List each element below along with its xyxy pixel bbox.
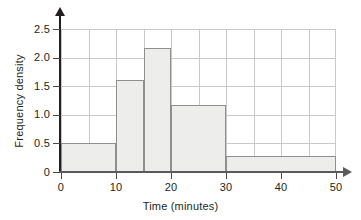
y-axis-title: Frequency density xyxy=(13,36,25,166)
gridline-x-30 xyxy=(226,29,227,172)
x-axis-title: Time (minutes) xyxy=(0,200,361,212)
gridline-x-35 xyxy=(254,29,255,172)
x-tick-50 xyxy=(336,173,337,179)
x-tick-label: 0 xyxy=(41,182,81,193)
x-axis-line xyxy=(59,171,344,173)
y-tick-label: 0 xyxy=(10,167,50,178)
gridline-x-40 xyxy=(281,29,282,172)
histogram-bar xyxy=(144,48,172,172)
y-axis-arrow-icon xyxy=(55,7,65,16)
histogram-bar xyxy=(171,105,226,172)
y-tick-label: 2.5 xyxy=(10,24,50,35)
y-axis-line xyxy=(59,14,61,173)
y-tick-1.5 xyxy=(53,86,60,87)
gridline-x-50 xyxy=(335,29,336,172)
histogram-bar xyxy=(226,156,336,172)
x-tick-label: 40 xyxy=(261,182,301,193)
y-tick-2.5 xyxy=(53,29,60,30)
y-tick-2.0 xyxy=(53,58,60,59)
histogram-bar xyxy=(116,80,144,172)
histogram-bar xyxy=(61,143,116,172)
x-tick-label: 30 xyxy=(206,182,246,193)
y-tick-1.0 xyxy=(53,115,60,116)
y-tick-0.5 xyxy=(53,143,60,144)
x-tick-30 xyxy=(226,173,227,179)
x-tick-10 xyxy=(116,173,117,179)
plot-area xyxy=(61,29,336,172)
x-tick-40 xyxy=(281,173,282,179)
x-tick-20 xyxy=(171,173,172,179)
y-tick-0 xyxy=(53,172,60,173)
x-tick-label: 20 xyxy=(151,182,191,193)
x-tick-label: 50 xyxy=(316,182,356,193)
x-tick-label: 10 xyxy=(96,182,136,193)
x-axis-arrow-icon xyxy=(343,167,352,177)
x-tick-0 xyxy=(61,173,62,179)
histogram-chart: 2.5 2.0 1.5 1.0 0.5 0 0 10 20 30 40 50 T… xyxy=(0,0,361,220)
gridline-x-45 xyxy=(309,29,310,172)
